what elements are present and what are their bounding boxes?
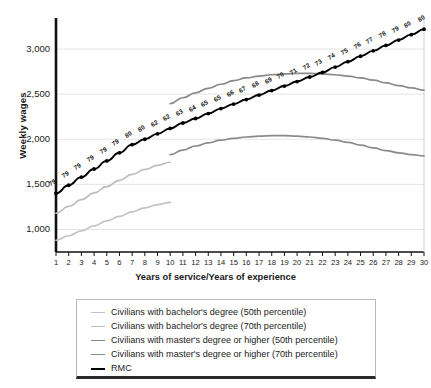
legend-line-icon (91, 340, 105, 341)
legend-line-icon (91, 312, 105, 313)
series-line (56, 29, 424, 193)
data-point-marker (283, 84, 287, 88)
data-point-marker (130, 143, 134, 147)
chart-legend: Civilians with bachelor's degree (50th p… (76, 299, 376, 379)
y-axis-tick-label: 1,000 (4, 223, 50, 234)
x-axis-title: Years of service/Years of experience (0, 272, 431, 282)
legend-line-icon (91, 354, 105, 355)
series-line (170, 73, 424, 103)
series-line (56, 202, 170, 240)
legend-line-icon (91, 326, 105, 327)
legend-item[interactable]: Civilians with bachelor's degree (70th p… (91, 319, 375, 333)
data-point-marker (219, 107, 223, 111)
legend-item-label: RMC (111, 364, 132, 373)
data-point-marker (346, 60, 350, 64)
y-axis-tick-label: 2,000 (4, 133, 50, 144)
legend-item[interactable]: RMC (91, 362, 375, 376)
data-point-marker (92, 167, 96, 171)
data-point-marker (308, 75, 312, 79)
data-point-marker (359, 54, 363, 58)
y-axis-tick-label: 1,500 (4, 178, 50, 189)
data-point-marker (333, 65, 337, 69)
legend-item-label: Civilians with master's degree or higher… (111, 336, 338, 345)
data-point-marker (257, 93, 261, 97)
data-point-marker (409, 33, 413, 37)
data-point-marker (384, 44, 388, 48)
data-point-marker (156, 132, 160, 136)
y-axis-tick-label: 2,500 (4, 88, 50, 99)
data-point-marker (67, 183, 71, 187)
data-point-marker (422, 27, 426, 31)
data-point-marker (270, 89, 274, 93)
data-point-marker (206, 112, 210, 116)
data-point-marker (194, 117, 198, 121)
data-point-marker (105, 159, 109, 163)
data-point-marker (244, 98, 248, 102)
data-point-marker (295, 80, 299, 84)
legend-item[interactable]: Civilians with bachelor's degree (50th p… (91, 305, 375, 319)
data-point-marker (54, 191, 58, 195)
chart-container: Weekly wages Civilians with bachelor's d… (0, 0, 431, 388)
data-point-marker (232, 102, 236, 106)
legend-line-icon (91, 368, 105, 370)
x-axis-tick-label: 30 (417, 258, 431, 267)
data-point-marker (118, 151, 122, 155)
data-point-marker (397, 38, 401, 42)
legend-item-label: Civilians with master's degree or higher… (111, 350, 338, 359)
data-point-marker (371, 49, 375, 53)
data-point-marker (321, 71, 325, 75)
legend-item[interactable]: Civilians with master's degree or higher… (91, 333, 375, 347)
legend-item-label: Civilians with bachelor's degree (70th p… (111, 322, 306, 331)
legend-item[interactable]: Civilians with master's degree or higher… (91, 348, 375, 362)
data-point-marker (168, 127, 172, 131)
series-line (170, 136, 424, 156)
y-axis-tick-label: 3,000 (4, 43, 50, 54)
data-point-marker (181, 121, 185, 125)
data-point-marker (79, 175, 83, 179)
legend-item-label: Civilians with bachelor's degree (50th p… (111, 308, 306, 317)
data-point-marker (143, 137, 147, 141)
